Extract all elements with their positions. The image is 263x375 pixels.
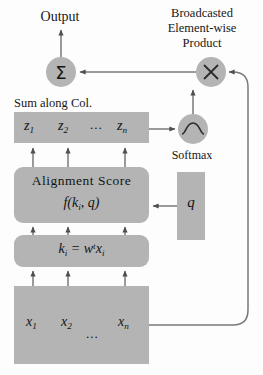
x-item-n: xn (118, 314, 129, 331)
broadcasted-line-1: Broadcasted (143, 6, 261, 21)
x-item-1: x1 (26, 314, 37, 331)
softmax-label: Softmax (160, 148, 224, 162)
multiply-node (196, 57, 226, 87)
broadcasted-line-2: Element-wise (143, 21, 261, 36)
key-projection-equation: ki = wtxi (14, 241, 149, 258)
z-vector-box: z1 z2 ... zn (14, 112, 149, 143)
x-item-2: x2 (61, 314, 72, 331)
summation-node: Σ (46, 57, 76, 87)
z-item-1: z1 (24, 118, 34, 135)
broadcasted-line-3: Product (143, 36, 261, 51)
input-vector-box: x1 x2 ... xn (14, 286, 149, 364)
output-label: Output (0, 9, 120, 26)
key-projection-box: ki = wtxi (14, 235, 149, 267)
z-ellipsis: ... (90, 117, 103, 133)
alignment-score-function: f(ki, q) (14, 195, 149, 212)
z-item-2: z2 (58, 118, 68, 135)
z-item-n: zn (117, 118, 127, 135)
alignment-score-title: Alignment Score (14, 173, 149, 189)
attention-diagram: Output Broadcasted Element-wise Product … (0, 0, 263, 375)
sigma-icon: Σ (46, 57, 76, 87)
x-ellipsis: ... (86, 326, 99, 342)
sum-along-col-label: Sum along Col. (14, 96, 92, 111)
query-symbol: q (177, 194, 205, 211)
multiply-icon (196, 57, 226, 87)
softmax-node (178, 114, 208, 144)
sigmoid-curve-icon (178, 114, 208, 144)
alignment-score-box: Alignment Score f(ki, q) (14, 167, 149, 223)
broadcasted-product-label: Broadcasted Element-wise Product (143, 6, 261, 50)
query-box: q (177, 172, 205, 240)
